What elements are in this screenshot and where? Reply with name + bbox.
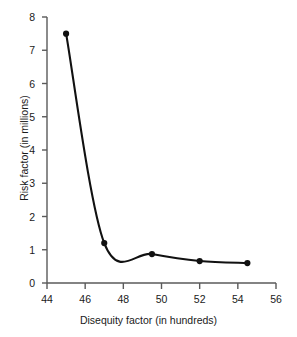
x-axis-tick-label: 52 bbox=[188, 294, 212, 305]
x-axis-tick-label: 44 bbox=[35, 294, 59, 305]
data-point-marker bbox=[101, 240, 107, 246]
x-axis-title: Disequity factor (in hundreds) bbox=[0, 314, 297, 326]
x-axis-tick-label: 48 bbox=[111, 294, 135, 305]
data-series-markers bbox=[63, 31, 251, 267]
chart-figure: 012345678 44464850525456 Risk factor (in… bbox=[0, 0, 297, 337]
data-point-marker bbox=[149, 251, 155, 257]
y-axis-tick-label: 1 bbox=[19, 245, 35, 256]
data-point-marker bbox=[63, 31, 69, 37]
data-point-marker bbox=[244, 260, 250, 266]
data-series-line bbox=[66, 34, 247, 263]
x-axis-tick-label: 54 bbox=[226, 294, 250, 305]
y-axis-tick-label: 8 bbox=[19, 12, 35, 23]
x-axis-tick-label: 56 bbox=[264, 294, 288, 305]
data-point-marker bbox=[197, 258, 203, 264]
x-axis-tick-label: 46 bbox=[73, 294, 97, 305]
x-axis-tick-label: 50 bbox=[150, 294, 174, 305]
x-axis-ticks bbox=[47, 283, 276, 289]
y-axis-tick-label: 7 bbox=[19, 45, 35, 56]
y-axis-tick-label: 0 bbox=[19, 278, 35, 289]
chart-plot-area bbox=[0, 0, 297, 337]
y-axis-ticks bbox=[42, 17, 47, 283]
y-axis-title: Risk factor (in millions) bbox=[18, 58, 30, 238]
